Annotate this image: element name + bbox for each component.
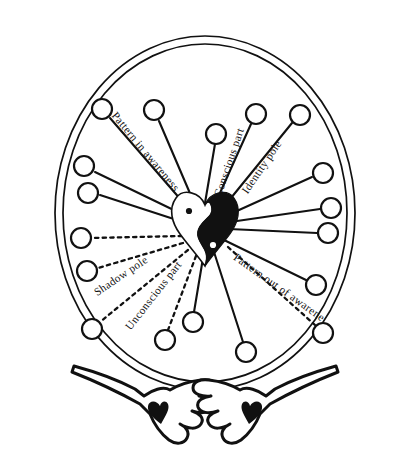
spoke-s13-node[interactable]	[236, 342, 256, 362]
spoke-s8-node[interactable]	[313, 163, 333, 183]
heart-light-half-dot	[186, 208, 192, 214]
left-hand	[72, 366, 217, 443]
spoke-s9-line	[230, 209, 320, 222]
spoke-s1-node[interactable]	[78, 183, 98, 203]
spoke-s10-line	[229, 229, 317, 233]
spoke-s13b-line	[194, 258, 203, 312]
self-pattern-wheel-illustration: Pattern in awareness Conscious part Iden…	[0, 0, 410, 473]
spoke-s11-node[interactable]	[313, 323, 333, 343]
spoke-s10-node[interactable]	[318, 223, 338, 243]
right-hand	[193, 366, 338, 443]
heart-dark-half-dot	[210, 242, 216, 248]
spoke-s14-node[interactable]	[155, 330, 175, 350]
spoke-s16-node[interactable]	[77, 261, 97, 281]
right-hand-outline	[193, 366, 338, 443]
two-open-hands	[72, 366, 338, 443]
spoke-s5-node[interactable]	[206, 124, 226, 144]
spoke-s15-node[interactable]	[82, 319, 102, 339]
spoke-s17-line	[92, 236, 182, 238]
spoke-s4-node[interactable]	[144, 100, 164, 120]
spoke-s17-node[interactable]	[71, 228, 91, 248]
spoke-s3-node[interactable]	[92, 99, 112, 119]
left-hand-outline	[72, 366, 217, 443]
spoke-s8-line	[228, 177, 312, 215]
spoke-s13b-node[interactable]	[183, 312, 203, 332]
spoke-s7-node[interactable]	[290, 105, 310, 125]
label-shadow-pole: Shadow pole	[92, 253, 150, 298]
spoke-s6-node[interactable]	[246, 104, 266, 124]
label-group: Pattern in awareness Conscious part Iden…	[0, 0, 327, 332]
spoke-s9-node[interactable]	[321, 198, 341, 218]
label-identity-pole: Identity pole	[239, 138, 284, 196]
spoke-s2-node[interactable]	[74, 156, 94, 176]
spoke-s12-node[interactable]	[306, 275, 326, 295]
diagram-canvas: Pattern in awareness Conscious part Iden…	[0, 0, 410, 473]
